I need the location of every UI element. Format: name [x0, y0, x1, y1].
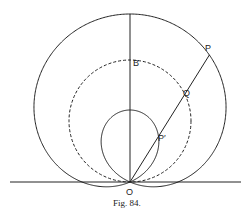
- label-Q: Q: [183, 88, 190, 98]
- ray-OP: [130, 55, 209, 182]
- label-P: P: [205, 43, 211, 53]
- label-B: B: [133, 58, 139, 68]
- label-P-prime: P′: [158, 133, 166, 143]
- label-O: O: [126, 187, 133, 197]
- figure-caption: Fig. 84.: [113, 198, 141, 208]
- limacon-diagram: B P Q P′ O Fig. 84.: [0, 0, 251, 209]
